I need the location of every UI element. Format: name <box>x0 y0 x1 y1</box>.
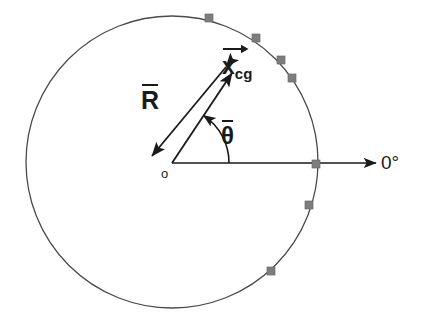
label-angle-theta: θ <box>221 124 234 148</box>
label-angle-theta-text: θ <box>221 124 234 148</box>
vector-arrow-accent-icon <box>223 43 249 54</box>
label-zero-degrees: 0° <box>381 153 399 172</box>
marker-5 <box>312 160 320 168</box>
label-radius-vector-text: R <box>141 88 159 113</box>
marker-7 <box>267 267 275 275</box>
marker-6 <box>305 201 313 209</box>
marker-3 <box>277 56 285 64</box>
marker-1 <box>205 14 213 22</box>
label-radius-vector: R <box>141 88 159 113</box>
radius-vector-R <box>152 67 226 156</box>
label-origin: o <box>161 167 168 180</box>
polar-diagram-figure: R x cg θ o 0° <box>0 0 421 323</box>
label-cg-vector: x cg <box>222 55 252 78</box>
marker-2 <box>252 34 260 42</box>
diagram-canvas <box>0 0 421 323</box>
cg-position-vector <box>172 73 232 163</box>
label-cg-vector-base: x <box>222 53 235 79</box>
label-cg-vector-subscript: cg <box>235 65 253 82</box>
marker-4 <box>288 74 296 82</box>
